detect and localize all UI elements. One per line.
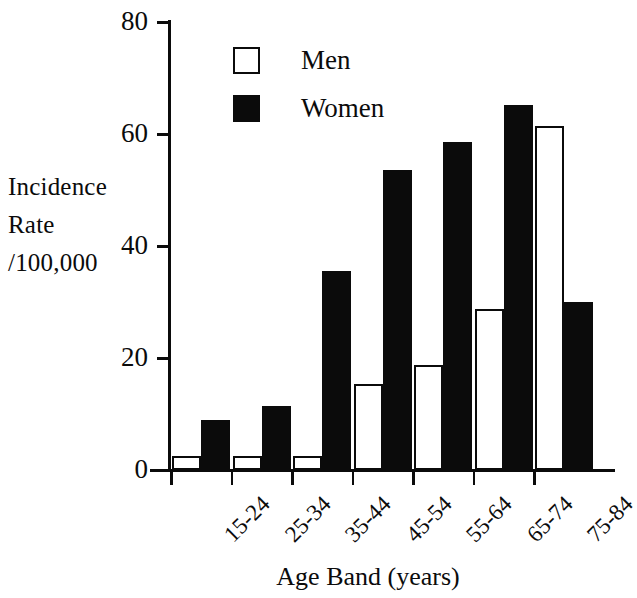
bar-men-25-34 <box>233 456 262 470</box>
x-tick-label-15-24: 15-24 <box>220 492 274 546</box>
y-tick-label-60: 60 <box>88 120 148 147</box>
x-tick-35-44 <box>291 471 294 485</box>
legend-item-men: Men <box>233 36 443 84</box>
bar-men-45-54 <box>354 384 383 470</box>
y-tick-0 <box>157 469 169 472</box>
x-tick-label-35-44: 35-44 <box>341 492 395 546</box>
bar-men-35-44 <box>293 456 322 470</box>
bar-women-65-74 <box>504 105 533 470</box>
x-tick-45-54 <box>352 471 355 485</box>
y-tick-40 <box>157 245 169 248</box>
x-axis-title: Age Band (years) <box>168 564 568 590</box>
bar-women-55-64 <box>443 142 472 470</box>
x-tick-label-55-64: 55-64 <box>462 492 516 546</box>
y-tick-label-0: 0 <box>88 456 148 483</box>
y-axis-title: Incidence Rate /100,000 <box>8 168 158 282</box>
x-tick-75-84 <box>533 471 536 485</box>
x-tick-65-74 <box>473 471 476 485</box>
bar-women-75-84 <box>564 302 593 470</box>
bar-women-25-34 <box>262 406 291 470</box>
x-tick-label-25-34: 25-34 <box>280 492 334 546</box>
bar-women-45-54 <box>383 170 412 470</box>
legend-label-men: Men <box>301 47 351 74</box>
y-tick-label-40: 40 <box>88 232 148 259</box>
x-tick-label-45-54: 45-54 <box>401 492 455 546</box>
bar-men-65-74 <box>475 309 504 470</box>
legend-swatch-women-icon <box>233 95 260 122</box>
bar-men-55-64 <box>414 365 443 470</box>
y-tick-20 <box>157 357 169 360</box>
bar-women-15-24 <box>201 420 230 470</box>
legend: Men Women <box>233 36 443 132</box>
y-tick-label-20: 20 <box>88 344 148 371</box>
legend-swatch-men-icon <box>233 47 260 74</box>
legend-item-women: Women <box>233 84 443 132</box>
x-tick-55-64 <box>412 471 415 485</box>
bar-men-75-84 <box>535 126 564 470</box>
bar-men-15-24 <box>172 456 201 470</box>
y-tick-60 <box>157 133 169 136</box>
y-tick-label-80: 80 <box>88 8 148 35</box>
y-tick-80 <box>157 21 169 24</box>
x-tick-25-34 <box>231 471 234 485</box>
legend-label-women: Women <box>301 95 384 122</box>
x-tick-15-24 <box>170 471 173 485</box>
x-tick-label-65-74: 65-74 <box>522 492 576 546</box>
x-tick-label-75-84: 75-84 <box>583 492 637 546</box>
bar-women-35-44 <box>322 271 351 470</box>
y-axis-title-line-1: Incidence <box>8 168 158 206</box>
